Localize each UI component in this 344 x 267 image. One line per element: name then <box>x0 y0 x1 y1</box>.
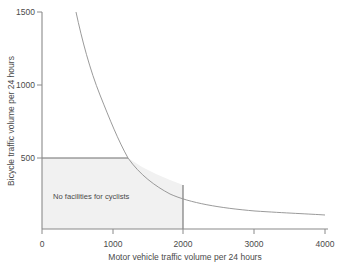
x-axis-title: Motor vehicle traffic volume per 24 hour… <box>108 252 261 262</box>
x-tick-label-2000: 2000 <box>174 239 193 249</box>
y-tick-label-1000: 1000 <box>16 80 35 90</box>
chart-figure: 1500 1000 500 0 1000 2000 3000 4000 Moto… <box>0 0 344 267</box>
y-tick-label-500: 500 <box>21 153 35 163</box>
y-tick-label-1500: 1500 <box>16 7 35 17</box>
y-axis-title: Bicycle traffic volume per 24 hours <box>6 56 16 186</box>
x-tick-label-1000: 1000 <box>104 239 123 249</box>
x-tick-label-0: 0 <box>40 239 45 249</box>
no-facilities-label: No facilities for cyclists <box>53 192 130 201</box>
x-tick-label-3000: 3000 <box>245 239 264 249</box>
x-tick-label-4000: 4000 <box>316 239 335 249</box>
